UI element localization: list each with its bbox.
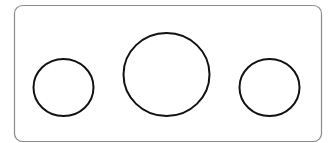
frame-rectangle: [15, 6, 322, 142]
diagram-canvas: [0, 0, 334, 143]
